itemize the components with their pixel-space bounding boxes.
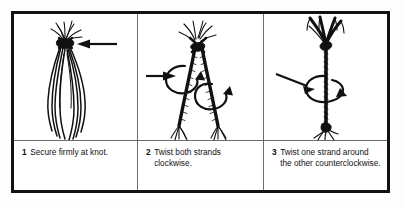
panel-3-caption: 3 Twist one strand around the other coun… (264, 140, 387, 190)
panel-step-3: 3 Twist one strand around the other coun… (263, 14, 387, 190)
knot (56, 38, 73, 48)
frayed-tips-top (179, 21, 216, 41)
caption-line: 1 Secure firmly at knot. (22, 147, 131, 158)
panel-1-illustration (14, 14, 137, 140)
left-strand-bundle (48, 47, 65, 139)
step-number: 2 (146, 147, 151, 158)
caption-line: 2 Twist both strands clockwise. (146, 147, 257, 169)
right-strand-frayed-end (211, 126, 226, 140)
figure-frame: 1 Secure firmly at knot. (11, 11, 390, 193)
pointer-arrow-to-left-strand (146, 72, 176, 81)
knot-secured-strands-drawing (14, 14, 137, 140)
plied-cord (324, 48, 328, 126)
step-number: 1 (22, 147, 27, 158)
panel-step-2: 2 Twist both strands clockwise. (137, 14, 263, 190)
plied-cord-drawing (264, 14, 387, 140)
step-text: Twist both strands clockwise. (154, 147, 257, 169)
caption-line: 3 Twist one strand around the other coun… (272, 147, 381, 169)
two-strands-twisting-drawing (138, 14, 263, 140)
panel-2-caption: 2 Twist both strands clockwise. (138, 140, 263, 190)
cord-frayed-end (314, 123, 338, 140)
step-text: Secure firmly at knot. (30, 147, 131, 158)
panel-3-illustration (264, 14, 387, 140)
right-strand-bundle (67, 47, 85, 140)
panel-2-illustration (138, 14, 263, 140)
splayed-top-loops (307, 17, 344, 44)
pointer-arrow-to-cord (276, 74, 315, 94)
step-number: 3 (272, 147, 277, 158)
panel-step-1: 1 Secure firmly at knot. (14, 14, 137, 190)
panel-1-caption: 1 Secure firmly at knot. (14, 140, 137, 190)
frayed-tips-top (51, 21, 82, 40)
left-strand-frayed-end (171, 126, 187, 140)
instruction-figure: 1 Secure firmly at knot. (0, 0, 405, 206)
step-text: Twist one strand around the other counte… (280, 147, 381, 169)
pointer-arrow-to-knot (77, 40, 117, 49)
right-strand (200, 48, 226, 140)
